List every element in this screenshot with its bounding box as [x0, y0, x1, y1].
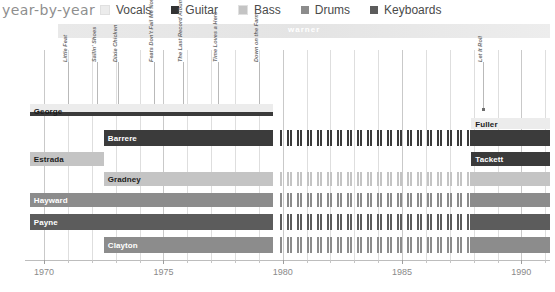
axis-tick-1977 [211, 260, 212, 263]
legend-item-bass: Bass [238, 3, 281, 17]
bar-gradney-bass[interactable] [280, 172, 471, 186]
member-name-payne: Payne [34, 218, 58, 227]
album-title: Sailin' Shoes [91, 27, 97, 62]
axis-tick-1975 [163, 260, 164, 264]
album-stem [97, 62, 98, 110]
member-name-hayward: Hayward [34, 196, 68, 205]
album-title: Feats Don't Fail Me Now [148, 0, 154, 62]
album-title: Time Loves a Hero [212, 11, 218, 62]
axis-tick-1970 [44, 260, 45, 264]
album-stem [483, 62, 484, 110]
member-row-clayton: Clayton [0, 237, 555, 253]
album-title: Dixie Chicken [112, 25, 118, 62]
bar-clayton-drums[interactable] [471, 237, 550, 253]
axis-tick-1985 [402, 260, 403, 264]
member-name-gradney: Gradney [108, 175, 141, 184]
axis-tick-1978 [235, 260, 236, 263]
legend-label: Keyboards [384, 3, 441, 17]
x-axis: 19701975198019851990 [0, 260, 555, 292]
album-stem [68, 62, 69, 110]
legend-label: Drums [315, 3, 350, 17]
member-rows: GeorgeBarrereEstradaGradneyHaywardPayneC… [0, 104, 555, 260]
member-name-estrada: Estrada [34, 155, 64, 164]
album-stem [154, 62, 155, 110]
axis-tick-1984 [378, 260, 379, 263]
axis-tick-1973 [116, 260, 117, 263]
axis-year-label: 1970 [34, 267, 54, 277]
axis-year-label: 1990 [511, 267, 531, 277]
bar-payne-keyboards[interactable] [280, 214, 471, 230]
bar-hayward-drums[interactable] [471, 193, 550, 207]
bar-barrere-guitar[interactable] [471, 130, 550, 146]
bar-george-guitar[interactable] [30, 112, 273, 116]
album-markers: Little FeatSailin' ShoesDixie ChickenFea… [0, 42, 555, 110]
legend-swatch-bass [238, 5, 248, 15]
bar-barrere-guitar[interactable] [280, 130, 471, 146]
album-title: The Last Record Album [177, 0, 183, 62]
axis-tick-1982 [330, 260, 331, 263]
legend-swatch-keyboards [370, 6, 378, 14]
axis-tick-1983 [354, 260, 355, 263]
chart-header: year-by-year VocalsGuitarBassDrumsKeyboa… [0, 0, 555, 20]
axis-tick-1979 [259, 260, 260, 263]
axis-tick-1990 [521, 260, 522, 264]
axis-year-label: 1975 [153, 267, 173, 277]
bar-payne-keyboards[interactable] [30, 214, 273, 230]
axis-tick-1976 [187, 260, 188, 263]
album-title: Down on the Farm [253, 12, 259, 62]
album-stem [183, 62, 184, 110]
member-name-barrere: Barrere [108, 134, 137, 143]
member-row-gradney: Gradney [0, 172, 555, 186]
page-title: year-by-year [2, 2, 94, 18]
album-stem [259, 62, 260, 110]
axis-tick-1989 [498, 260, 499, 263]
album-stem [218, 62, 219, 110]
legend-item-drums: Drums [301, 3, 350, 17]
member-name-fuller: Fuller [475, 119, 497, 128]
axis-year-label: 1980 [273, 267, 293, 277]
legend-item-vocals: Vocals [100, 3, 151, 17]
axis-tick-1980 [283, 260, 284, 264]
chart-body: warner Little FeatSailin' ShoesDixie Chi… [0, 20, 555, 292]
bar-hayward-drums[interactable] [280, 193, 471, 207]
member-name-george: George [34, 107, 63, 116]
axis-line [25, 260, 550, 261]
axis-tick-1991 [545, 260, 546, 263]
axis-tick-1986 [426, 260, 427, 263]
axis-tick-1987 [450, 260, 451, 263]
album-title: Let It Roll [477, 36, 483, 62]
member-row-barrere: Barrere [0, 130, 555, 146]
member-name-tackett: Tackett [475, 155, 503, 164]
axis-tick-1981 [307, 260, 308, 263]
bar-clayton-drums[interactable] [280, 237, 471, 253]
member-name-clayton: Clayton [108, 241, 138, 250]
member-row-payne: Payne [0, 214, 555, 230]
axis-tick-1971 [68, 260, 69, 263]
album-stem [118, 62, 119, 110]
legend-item-keyboards: Keyboards [370, 3, 441, 17]
axis-tick-1974 [140, 260, 141, 263]
album-title: Little Feat [62, 35, 68, 62]
legend-label: Vocals [116, 3, 151, 17]
axis-year-label: 1985 [392, 267, 412, 277]
member-row-george: George [0, 104, 555, 118]
legend-swatch-drums [301, 6, 309, 14]
member-row-tackett: Tackett [0, 152, 555, 166]
legend-swatch-vocals [100, 5, 110, 15]
member-row-hayward: Hayward [0, 193, 555, 207]
member-row-fuller: Fuller [0, 118, 555, 129]
bar-gradney-bass[interactable] [471, 172, 550, 186]
axis-tick-1988 [474, 260, 475, 263]
bar-payne-keyboards[interactable] [471, 214, 550, 230]
axis-tick-1972 [92, 260, 93, 263]
